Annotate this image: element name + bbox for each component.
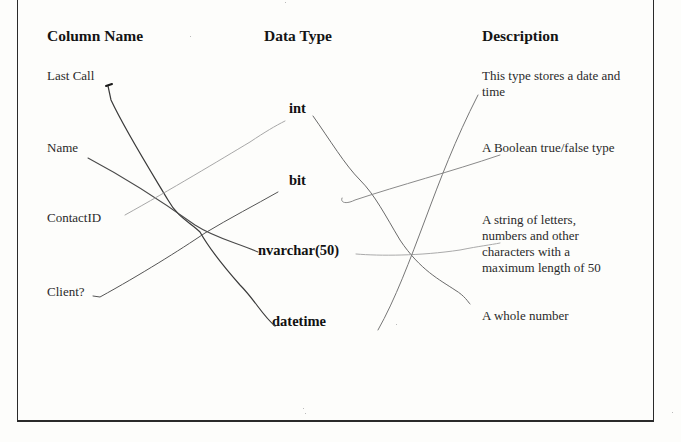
- match-line-int-wholenumber[interactable]: [313, 116, 470, 304]
- pen-mark: [106, 84, 112, 86]
- match-line-name-nvarchar[interactable]: [88, 158, 258, 252]
- scan-speck: [672, 412, 673, 413]
- match-line-nvarchar-string[interactable]: [356, 243, 500, 255]
- match-line-lastcall-datetime[interactable]: [108, 86, 275, 326]
- scan-speck: [285, 2, 286, 3]
- match-line-datetime-datestime-desc[interactable]: [378, 95, 478, 330]
- scan-speck: [396, 324, 397, 325]
- match-line-bit-boolean[interactable]: [342, 155, 500, 203]
- match-line-client-bit[interactable]: [93, 192, 278, 297]
- scan-speck: [303, 408, 304, 409]
- scan-speck: [190, 36, 191, 37]
- matching-lines: [0, 0, 681, 442]
- scan-speck: [305, 413, 306, 414]
